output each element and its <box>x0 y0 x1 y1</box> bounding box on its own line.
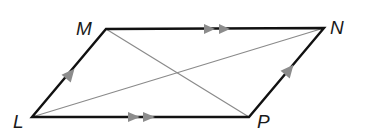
diagonal-MP <box>106 29 249 117</box>
diagonal-LN <box>32 28 324 117</box>
vertex-label-M: M <box>76 18 92 39</box>
parallelogram-diagram: M N L P <box>0 0 369 140</box>
vertex-label-L: L <box>13 111 24 132</box>
vertex-label-P: P <box>257 111 270 132</box>
vertex-label-N: N <box>330 17 344 38</box>
